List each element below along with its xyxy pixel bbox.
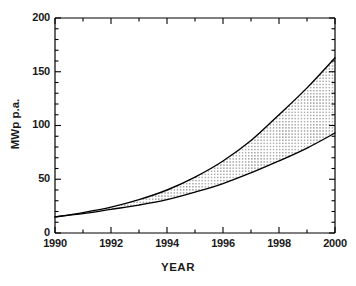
y-tick-label-50: 50 <box>14 172 50 184</box>
x-axis-title: YEAR <box>0 261 356 273</box>
x-tick-label-1992: 1992 <box>89 237 133 249</box>
y-axis-title: MWp p.a. <box>9 76 21 172</box>
x-tick-label-1998: 1998 <box>257 237 301 249</box>
uncertainty-band <box>55 58 335 217</box>
y-tick-label-200: 200 <box>14 11 50 23</box>
x-tick-label-1996: 1996 <box>201 237 245 249</box>
chart-figure: 200 150 100 50 0 1990 1992 1994 1996 199… <box>0 0 356 286</box>
x-tick-label-1990: 1990 <box>33 237 77 249</box>
x-tick-label-1994: 1994 <box>145 237 189 249</box>
x-tick-label-2000: 2000 <box>313 237 356 249</box>
